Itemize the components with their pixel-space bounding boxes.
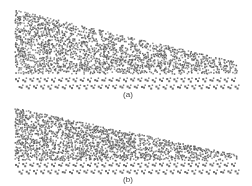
particle-pile-a: [0, 0, 252, 100]
particle-pile-b: [0, 100, 252, 186]
caption-a: (a): [113, 91, 143, 99]
panel-a: (a): [0, 0, 252, 100]
caption-b: (b): [113, 176, 143, 184]
panel-b: (b): [0, 100, 252, 186]
